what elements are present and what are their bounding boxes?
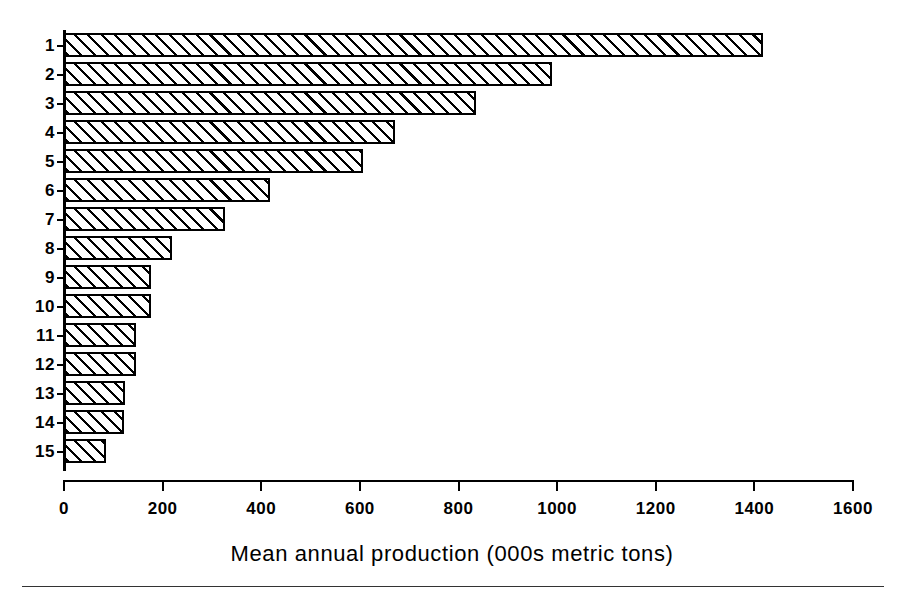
y-axis-tick-mark — [57, 190, 63, 192]
bar — [64, 265, 151, 289]
y-axis-tick-mark — [57, 248, 63, 250]
x-axis-tick-label: 1000 — [537, 500, 577, 517]
x-axis-tick-mark — [655, 482, 657, 491]
y-axis-tick-label: 1 — [45, 37, 55, 54]
y-axis-tick-mark — [57, 335, 63, 337]
x-axis-tick-label: 400 — [246, 500, 276, 517]
bar-row: 11 — [64, 323, 136, 347]
y-axis-tick-mark — [57, 306, 63, 308]
x-axis-tick-label: 800 — [444, 500, 474, 517]
x-axis-tick-mark — [359, 482, 361, 491]
y-axis-tick-mark — [57, 364, 63, 366]
y-axis-tick-mark — [57, 393, 63, 395]
bar — [64, 33, 763, 57]
y-axis-tick-mark — [57, 422, 63, 424]
bar — [64, 410, 124, 434]
bar — [64, 62, 552, 86]
y-axis-tick-label: 5 — [45, 153, 55, 170]
bar-row: 8 — [64, 236, 172, 260]
x-axis-tick-label: 1400 — [734, 500, 774, 517]
bar — [64, 149, 363, 173]
y-axis-tick-label: 7 — [45, 211, 55, 228]
bar — [64, 178, 270, 202]
x-axis-tick-label: 200 — [148, 500, 178, 517]
x-axis-title: Mean annual production (000s metric tons… — [0, 543, 904, 565]
y-axis-tick-label: 9 — [45, 269, 55, 286]
bar — [64, 323, 136, 347]
y-axis-tick-mark — [57, 45, 63, 47]
y-axis-tick-label: 14 — [35, 414, 55, 431]
plot-area: 123456789101112131415 020040060080010001… — [0, 0, 904, 500]
y-axis-tick-mark — [57, 277, 63, 279]
y-axis-tick-mark — [57, 219, 63, 221]
bar-row: 2 — [64, 62, 552, 86]
x-axis-tick-mark — [63, 482, 65, 491]
bar-row: 1 — [64, 33, 763, 57]
y-axis-tick-label: 8 — [45, 240, 55, 257]
y-axis-tick-mark — [57, 451, 63, 453]
bar — [64, 352, 136, 376]
bar — [64, 439, 106, 463]
y-axis-tick-label: 11 — [36, 327, 55, 344]
y-axis-tick-label: 3 — [45, 95, 55, 112]
bar-row: 4 — [64, 120, 395, 144]
x-axis-tick-label: 1200 — [636, 500, 676, 517]
y-axis-tick-label: 2 — [45, 66, 55, 83]
bar-row: 10 — [64, 294, 151, 318]
y-axis-tick-label: 12 — [35, 356, 55, 373]
y-axis-tick-label: 13 — [35, 385, 55, 402]
bar-row: 3 — [64, 91, 476, 115]
x-axis-tick-mark — [753, 482, 755, 491]
y-axis-tick-mark — [57, 132, 63, 134]
x-axis-tick-mark — [260, 482, 262, 491]
bar-row: 14 — [64, 410, 124, 434]
x-axis-tick-mark — [458, 482, 460, 491]
bottom-rule — [22, 586, 884, 587]
x-axis-tick-mark — [162, 482, 164, 491]
bar — [64, 91, 476, 115]
bar-row: 13 — [64, 381, 125, 405]
y-axis-tick-label: 10 — [35, 298, 55, 315]
bar — [64, 236, 172, 260]
bar — [64, 120, 395, 144]
y-axis-tick-mark — [57, 103, 63, 105]
x-axis-tick-mark — [556, 482, 558, 491]
x-axis-tick-mark — [852, 482, 854, 491]
bar-row: 12 — [64, 352, 136, 376]
y-axis-tick-label: 4 — [45, 124, 55, 141]
bar-row: 5 — [64, 149, 363, 173]
bar-row: 6 — [64, 178, 270, 202]
bar-row: 9 — [64, 265, 151, 289]
bar-row: 7 — [64, 207, 225, 231]
bar-row: 15 — [64, 439, 106, 463]
bar-chart-figure: 123456789101112131415 020040060080010001… — [0, 0, 904, 601]
y-axis-tick-mark — [57, 74, 63, 76]
bar — [64, 207, 225, 231]
x-axis-tick-label: 1600 — [833, 500, 873, 517]
x-axis-tick-label: 600 — [345, 500, 375, 517]
bar — [64, 294, 151, 318]
y-axis-tick-label: 6 — [45, 182, 55, 199]
bar — [64, 381, 125, 405]
x-axis-tick-label: 0 — [59, 500, 69, 517]
y-axis-tick-label: 15 — [35, 443, 55, 460]
y-axis-tick-mark — [57, 161, 63, 163]
